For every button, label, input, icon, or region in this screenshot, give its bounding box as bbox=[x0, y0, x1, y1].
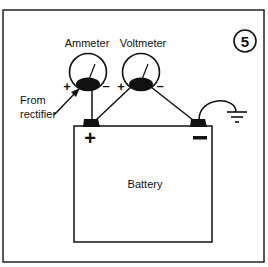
voltmeter-label: Voltmeter bbox=[120, 37, 167, 49]
voltmeter-icon bbox=[123, 54, 160, 91]
wire-voltmeter-negative bbox=[151, 87, 193, 120]
battery-negative-sign bbox=[193, 136, 207, 140]
ammeter-minus: – bbox=[102, 78, 109, 93]
figure-number: 5 bbox=[241, 33, 249, 50]
from-rectifier-label-line2: rectifier bbox=[20, 108, 56, 120]
battery-label: Battery bbox=[128, 178, 163, 190]
ammeter-plus: + bbox=[63, 79, 71, 94]
voltmeter-plus: + bbox=[117, 79, 125, 94]
ammeter-icon bbox=[70, 54, 107, 91]
negative-terminal bbox=[190, 119, 207, 127]
wiring bbox=[92, 86, 236, 120]
from-rectifier-label-line1: From bbox=[20, 94, 46, 106]
figure-number-badge: 5 bbox=[234, 30, 256, 52]
ammeter-label: Ammeter bbox=[65, 37, 110, 49]
positive-terminal bbox=[83, 119, 100, 127]
wire-ground bbox=[199, 101, 236, 120]
battery-charging-diagram: 5 Ammeter Voltmeter + – + – From rectifi… bbox=[0, 0, 268, 267]
voltmeter-minus: – bbox=[156, 78, 163, 93]
ground-icon bbox=[227, 112, 247, 122]
battery-positive-sign: + bbox=[84, 127, 96, 149]
